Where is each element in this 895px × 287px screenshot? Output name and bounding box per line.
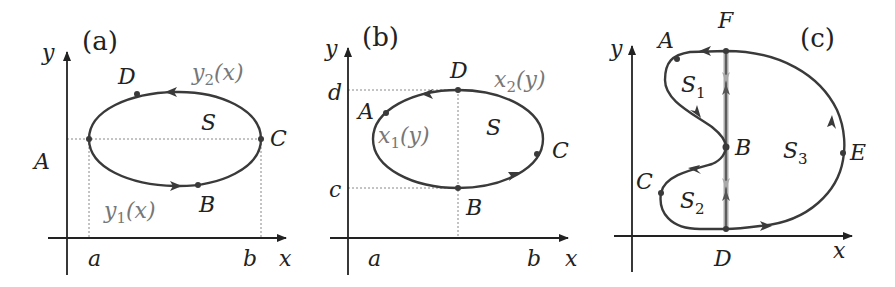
point-label-c-A: A (656, 28, 674, 53)
tick-label-b-b: b (527, 246, 541, 271)
tick-label-a-a: a (88, 246, 101, 271)
region-label-b-S: S (486, 115, 501, 140)
arrow-icon-b-top (421, 89, 433, 99)
point-label-b-D: D (449, 58, 468, 83)
point-a-A (86, 136, 92, 142)
point-b-B (455, 185, 461, 191)
point-b-A (383, 110, 389, 116)
point-label-b-B: B (465, 195, 482, 220)
point-c-B (723, 144, 730, 151)
tick-label-b-c: c (329, 177, 341, 202)
point-label-c-B: B (734, 135, 751, 160)
point-label-a-B: B (198, 192, 215, 217)
function-label-y1: y1(x) (103, 198, 156, 227)
point-a-B (195, 182, 201, 188)
axis-label-x-b: x (565, 246, 578, 271)
axis-label-x-a: x (279, 246, 292, 271)
region-label-a-S: S (201, 110, 216, 135)
region-label-S1: S1 (681, 72, 706, 102)
panel-a: (a) y x a b A B C D S y2(x) y1(x) (32, 26, 292, 275)
panel-c: (c) y x F A B C D E S1 S2 S3 (609, 8, 866, 272)
tick-label-a-b: b (243, 246, 257, 271)
point-label-a-C: C (270, 126, 287, 151)
tick-label-b-d: d (328, 80, 342, 105)
axis-label-x-c: x (833, 238, 846, 263)
region-label-S2: S2 (680, 188, 705, 218)
point-c-C (658, 190, 664, 196)
point-label-c-F: F (717, 8, 734, 33)
point-b-D (455, 87, 461, 93)
point-c-E (840, 150, 846, 156)
point-a-C (258, 136, 264, 142)
function-label-y2: y2(x) (191, 60, 244, 89)
point-label-a-A: A (32, 149, 50, 174)
panel-tag-c: (c) (800, 23, 835, 53)
axis-label-y-a: y (41, 40, 55, 65)
panel-tag-a: (a) (82, 26, 118, 56)
panel-tag-b: (b) (362, 22, 399, 52)
axis-label-y-b: y (324, 36, 338, 61)
tick-label-b-a: a (368, 246, 381, 271)
point-label-c-D: D (713, 246, 732, 271)
point-a-D (134, 91, 140, 97)
function-label-x1: x1(y) (378, 123, 430, 152)
region-label-S3: S3 (783, 138, 808, 168)
point-c-F (723, 48, 729, 54)
point-label-a-D: D (117, 64, 136, 89)
greens-theorem-figure: (a) y x a b A B C D S y2(x) y1(x) (0, 0, 895, 287)
point-label-b-A: A (356, 99, 374, 124)
function-label-x2: x2(y) (494, 67, 546, 96)
panel-b: (b) y x a b d c D B A C S x2(y) x1(y) (324, 22, 578, 275)
point-c-D (723, 226, 729, 232)
arrow-icon-b-bottom (508, 172, 520, 181)
point-label-c-C: C (636, 169, 653, 194)
axis-label-y-c: y (609, 36, 623, 61)
point-c-A (674, 56, 680, 62)
point-b-C (534, 151, 540, 157)
point-label-c-E: E (849, 140, 866, 165)
point-label-b-C: C (552, 138, 569, 163)
arrow-icon-c-E-F (827, 115, 836, 129)
